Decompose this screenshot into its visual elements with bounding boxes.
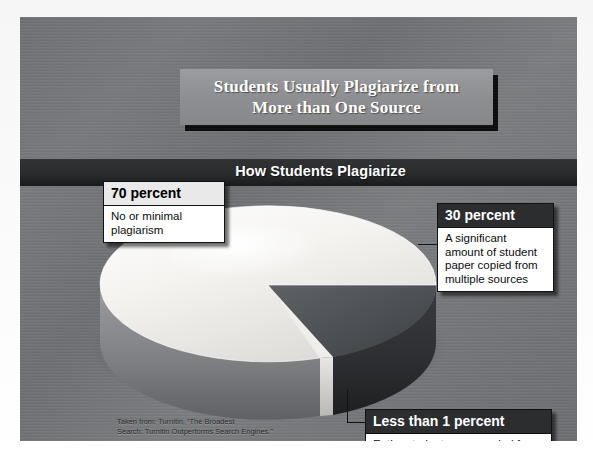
slide-title-plaque: Students Usually Plagiarize from More th… [180,69,493,125]
callout-30-header: 30 percent [438,204,553,228]
slide-title-line-1: Students Usually Plagiarize from [214,77,460,96]
chart-heading: How Students Plagiarize [20,163,577,179]
source-attribution: Taken from: Turnitin, “The Broadest Sear… [117,417,327,437]
callout-30-percent: 30 percent A significant amount of stude… [437,203,554,292]
callout-70-percent: 70 percent No or minimal plagiarism [103,181,225,243]
callout-70-body: No or minimal plagiarism [104,206,224,242]
slide-title: Students Usually Plagiarize from More th… [214,76,460,118]
pie-side-sliver [320,357,333,416]
callout-less-than-1-percent: Less than 1 percent Entire student paper… [365,409,552,441]
callout-70-header: 70 percent [104,182,224,206]
slide-frame: Students Usually Plagiarize from More th… [0,0,593,464]
slide-title-line-2: More than One Source [252,98,421,117]
presentation-slide: Students Usually Plagiarize from More th… [20,17,577,441]
source-line-1: Taken from: Turnitin, “The Broadest [117,417,327,427]
leader-line-1-horizontal [347,422,366,423]
callout-1-header: Less than 1 percent [366,410,551,434]
callout-30-body: A significant amount of student paper co… [438,228,553,291]
callout-1-body: Entire student paper copied from another… [366,434,551,441]
leader-line-1-vertical [347,389,348,423]
leader-line-30 [418,244,438,245]
source-line-2: Search: Turnitin Outperforms Search Engi… [117,427,327,437]
